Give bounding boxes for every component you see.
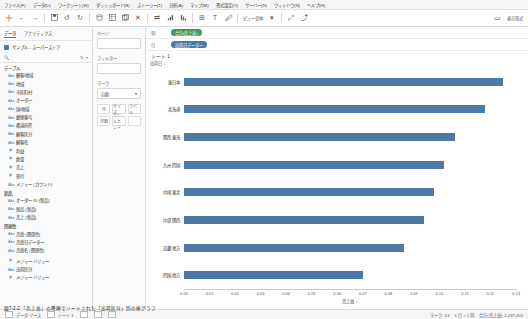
menu-item-format[interactable]: 書式設定(O) xyxy=(216,2,238,8)
field-item[interactable]: #メジャー バリュー xyxy=(0,257,92,265)
field-item[interactable]: #売上 xyxy=(0,163,92,171)
field-item[interactable]: Abcオーダー xyxy=(0,96,92,104)
field-item[interactable]: Abc製品 (製品) xyxy=(0,205,92,213)
abc-icon: Abc xyxy=(8,206,13,211)
bar[interactable] xyxy=(184,244,404,252)
field-item[interactable]: Abc顧客区分 xyxy=(0,130,92,138)
chevron-down-icon-marks[interactable]: ▾ xyxy=(135,91,137,96)
rows-shelf[interactable]: 行 出荷日データー xyxy=(146,39,528,51)
field-item[interactable]: Abc国/地域 xyxy=(0,105,92,113)
fit-dropdown[interactable]: ビュー全体 xyxy=(243,15,263,21)
field-item[interactable]: Abcメジャー (カウント) xyxy=(0,180,92,188)
field-item[interactable]: Abc地域 xyxy=(0,79,92,87)
menu-item-server[interactable]: サーバー(S) xyxy=(245,2,267,8)
data-source-item[interactable]: サンプル - スーパーストア xyxy=(0,41,92,53)
new-worksheet-icon[interactable] xyxy=(108,14,116,22)
field-item[interactable]: Abc都道府県 xyxy=(0,121,92,129)
menu-item-window[interactable]: ウィンドウ(N) xyxy=(274,2,300,8)
marks-detail-button[interactable]: 詳細 xyxy=(97,116,110,126)
field-item[interactable]: Abc売掛名 (関係性) xyxy=(0,246,92,254)
abc-icon: Abc xyxy=(8,106,13,111)
field-item[interactable]: #数量 xyxy=(0,155,92,163)
forward-arrow-icon[interactable]: → xyxy=(31,14,39,22)
undo-icon[interactable]: ↺ xyxy=(63,14,71,22)
menu-item-dashboard[interactable]: ダッシュボード(B) xyxy=(96,2,130,8)
marks-type-dropdown[interactable]: 自動 ▾ xyxy=(97,88,141,99)
search-input[interactable] xyxy=(12,55,13,60)
new-data-source-icon[interactable] xyxy=(95,14,103,22)
field-item[interactable]: Abc市区町村 xyxy=(0,88,92,96)
bar[interactable] xyxy=(184,78,503,86)
field-item[interactable]: Abc売掛日データー xyxy=(0,238,92,246)
bar[interactable] xyxy=(184,133,455,141)
fixed-axis-icon[interactable]: ⤢ xyxy=(287,14,295,22)
sort-fields-icon[interactable]: ⇅ xyxy=(80,55,83,60)
menu-item-worksheet[interactable]: ワークシート(W) xyxy=(58,2,89,8)
abc-icon: Abc xyxy=(8,267,13,272)
sort-descending-icon[interactable] xyxy=(179,14,187,22)
field-label: 売上 (製品) xyxy=(16,214,36,220)
menu-item-help[interactable]: ヘルプ(H) xyxy=(307,2,325,8)
clear-sheet-icon[interactable]: ✕ xyxy=(134,14,142,22)
columns-shelf[interactable]: 列 合計(売上高) xyxy=(146,27,528,39)
status-sheet-1-tab[interactable]: シート 1 xyxy=(47,311,74,318)
marks-tooltip-button[interactable]: ツールヒント xyxy=(112,116,125,126)
bar[interactable] xyxy=(184,271,363,279)
field-item[interactable]: Abc出荷区分 xyxy=(0,265,92,273)
field-item[interactable]: #利益 xyxy=(0,146,92,154)
bar-chart[interactable]: 出荷日 ↓ 東日本北海道関西 東海九州 四国中国 東北中部 関西近畿 地方四国 … xyxy=(146,60,522,309)
group-members-icon[interactable]: ⊞ xyxy=(198,14,206,22)
save-icon[interactable] xyxy=(50,14,58,22)
marks-empty-slot xyxy=(128,116,141,126)
x-axis-tick: 0.04 xyxy=(282,291,290,296)
menu-item-analysis[interactable]: 分析(A) xyxy=(169,2,183,8)
marks-color-button[interactable]: 色 xyxy=(97,104,110,114)
highlight-icon[interactable]: 🖉 xyxy=(224,14,232,22)
presentation-mode-icon[interactable]: ▭ xyxy=(493,14,501,22)
chevron-down-icon-fields[interactable]: ▾ xyxy=(86,55,88,60)
swap-axes-icon[interactable]: ⇄ xyxy=(153,14,161,22)
duplicate-sheet-icon[interactable] xyxy=(121,14,129,22)
tab-analytics[interactable]: アナリティクス xyxy=(24,30,52,38)
show-labels-icon[interactable]: T xyxy=(211,14,219,22)
menu-item-data[interactable]: データ(D) xyxy=(33,2,51,8)
share-icon[interactable]: ⤴ xyxy=(300,14,308,22)
pill-columns-sales[interactable]: 合計(売上高) xyxy=(171,29,202,37)
search-row[interactable]: 🔍 ⇅ ▾ xyxy=(0,53,92,63)
new-worksheet-tab-icon[interactable] xyxy=(80,311,88,318)
columns-label: 列 xyxy=(151,30,167,36)
pill-rows-shipmode[interactable]: 出荷日データー xyxy=(171,41,207,49)
bar[interactable] xyxy=(184,161,444,169)
menu-item-map[interactable]: マップ(M) xyxy=(190,2,209,8)
bar[interactable] xyxy=(184,216,424,224)
field-item[interactable]: Abc顧客/地域 xyxy=(0,71,92,79)
field-label: オーダー ID (製品) xyxy=(16,197,50,203)
new-story-tab-icon[interactable] xyxy=(108,311,116,318)
marks-label-button[interactable]: ラベル xyxy=(128,104,141,114)
sort-ascending-icon[interactable] xyxy=(166,14,174,22)
back-arrow-icon[interactable]: ← xyxy=(18,14,26,22)
field-item[interactable]: Abc売上 (製品) xyxy=(0,213,92,221)
field-item[interactable]: #割引 xyxy=(0,172,92,180)
field-item[interactable]: Abcオーダー ID (製品) xyxy=(0,196,92,204)
new-dashboard-tab-icon[interactable] xyxy=(94,311,102,318)
field-item[interactable]: Abc顧客名 xyxy=(0,138,92,146)
field-item[interactable]: Abc売掛 (関係性) xyxy=(0,229,92,237)
status-data-source[interactable]: データ ソース xyxy=(5,311,41,318)
field-item[interactable]: Abc郵便番号 xyxy=(0,113,92,121)
tableau-logo-icon[interactable] xyxy=(5,14,13,22)
data-source-tab-icon xyxy=(5,311,13,318)
bar[interactable] xyxy=(184,188,434,196)
filters-shelf[interactable] xyxy=(97,63,141,74)
field-item[interactable]: #メジャー バリュー xyxy=(0,273,92,281)
menu-item-file[interactable]: ファイル(F) xyxy=(4,2,26,8)
menu-item-story[interactable]: ストーリー(T) xyxy=(137,2,163,8)
tab-data[interactable]: データ xyxy=(4,30,16,38)
pages-shelf[interactable] xyxy=(97,38,141,49)
bar[interactable] xyxy=(184,105,485,113)
search-icon: 🔍 xyxy=(4,55,9,60)
chevron-down-icon[interactable]: ▾ xyxy=(268,14,276,22)
presentation-label[interactable]: 表示形式 xyxy=(507,15,523,21)
category-label: 四国 地方 xyxy=(146,272,180,278)
redo-icon[interactable]: ↻ xyxy=(76,14,84,22)
